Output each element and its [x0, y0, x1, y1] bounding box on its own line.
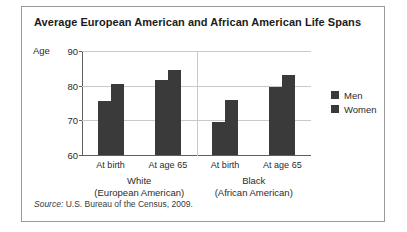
- legend-label: Women: [344, 104, 377, 115]
- bar: [269, 87, 282, 155]
- bar: [155, 80, 168, 155]
- group-label: White(European American): [94, 175, 184, 199]
- y-tick-label: 70: [67, 115, 78, 126]
- source-text: U.S. Bureau of the Census, 2009.: [63, 199, 192, 209]
- bar: [168, 70, 181, 155]
- legend-swatch-icon: [331, 91, 339, 99]
- chart-figure: Average European American and African Am…: [21, 6, 385, 222]
- x-tick-label: At age 65: [263, 160, 302, 170]
- group-label: Black(African American): [215, 175, 293, 199]
- source-note: Source: U.S. Bureau of the Census, 2009.: [34, 199, 193, 209]
- group-subtitle: (African American): [215, 187, 293, 199]
- chart-legend: Men Women: [331, 88, 377, 116]
- group-subtitle: (European American): [94, 187, 184, 199]
- legend-swatch-icon: [331, 105, 339, 113]
- bar: [212, 122, 225, 155]
- group-divider: [197, 51, 198, 156]
- x-tick-label: At birth: [96, 160, 125, 170]
- y-tick-mark: [79, 51, 82, 52]
- bar: [225, 100, 238, 155]
- y-axis-title: Age: [33, 45, 50, 56]
- y-tick-mark: [79, 155, 82, 156]
- group-name: White: [94, 175, 184, 187]
- source-prefix: Source:: [34, 199, 63, 209]
- x-tick-label: At age 65: [149, 160, 188, 170]
- group-name: Black: [215, 175, 293, 187]
- bar: [282, 75, 295, 155]
- bar: [111, 84, 124, 155]
- y-tick-label: 80: [67, 80, 78, 91]
- plot-area: 60708090: [82, 51, 311, 156]
- legend-item-women: Women: [331, 102, 377, 116]
- y-tick-label: 60: [67, 150, 78, 161]
- y-tick-mark: [79, 120, 82, 121]
- y-axis-line: [82, 51, 83, 156]
- bar: [98, 101, 111, 155]
- y-tick-label: 90: [67, 46, 78, 57]
- legend-label: Men: [344, 90, 362, 101]
- chart-title: Average European American and African Am…: [34, 16, 361, 28]
- y-tick-mark: [79, 86, 82, 87]
- x-tick-label: At birth: [211, 160, 240, 170]
- legend-item-men: Men: [331, 88, 377, 102]
